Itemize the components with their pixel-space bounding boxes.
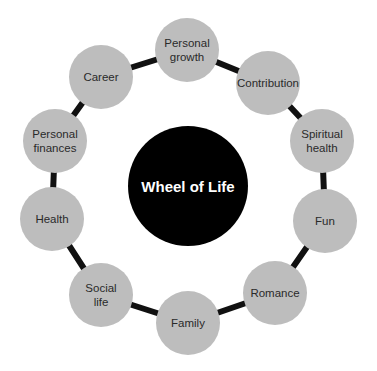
node-circle — [155, 18, 219, 82]
node-personal-growth: Personalgrowth — [155, 18, 219, 82]
node-label: life — [94, 296, 109, 308]
node-label: Family — [171, 317, 205, 329]
node-label: Social — [85, 282, 116, 294]
node-label: growth — [170, 51, 205, 63]
node-label: finances — [34, 142, 77, 154]
node-label: Career — [83, 71, 118, 83]
node-label: Health — [35, 213, 68, 225]
node-label: Contribution — [237, 77, 299, 89]
node-label: health — [306, 142, 337, 154]
node-social-life: Sociallife — [69, 263, 133, 327]
center-title: Wheel of Life — [141, 178, 234, 195]
node-career: Career — [69, 45, 133, 109]
node-spiritual-health: Spiritualhealth — [290, 109, 354, 173]
node-label: Romance — [250, 287, 299, 299]
node-contribution: Contribution — [236, 51, 300, 115]
node-circle — [23, 109, 87, 173]
node-health: Health — [20, 187, 84, 251]
node-label: Personal — [164, 37, 209, 49]
node-circle — [69, 263, 133, 327]
node-family: Family — [156, 291, 220, 355]
node-circle — [290, 109, 354, 173]
node-romance: Romance — [243, 261, 307, 325]
node-label: Personal — [32, 128, 77, 140]
node-label: Fun — [315, 215, 335, 227]
wheel-of-life-diagram: Wheel of Life PersonalgrowthContribution… — [0, 0, 377, 371]
center-hub: Wheel of Life — [128, 126, 248, 246]
node-personal-finances: Personalfinances — [23, 109, 87, 173]
node-label: Spiritual — [301, 128, 343, 140]
node-fun: Fun — [293, 189, 357, 253]
